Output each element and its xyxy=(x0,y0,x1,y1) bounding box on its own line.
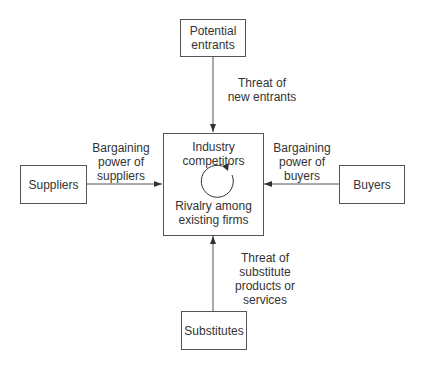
edge-label-line: power of xyxy=(267,155,337,169)
buyers-box: Buyers xyxy=(339,165,405,204)
edge-label-line: power of xyxy=(86,155,156,169)
edge-label-line: substitute xyxy=(220,265,310,279)
edge-label-line: buyers xyxy=(267,169,337,183)
edge-label-line: services xyxy=(220,293,310,307)
substitutes-box: Substitutes xyxy=(181,311,247,350)
supplier-power-label: Bargaining power of suppliers xyxy=(86,141,156,183)
threat-substitutes-label: Threat of substitute products or service… xyxy=(220,251,310,307)
edge-label-line: Bargaining xyxy=(86,141,156,155)
threat-new-entrants-label: Threat of new entrants xyxy=(222,76,302,104)
rivalry-label-2: existing firms xyxy=(175,213,252,227)
rivalry-label-1: Rivalry among xyxy=(175,199,252,213)
edge-label-line: Bargaining xyxy=(267,141,337,155)
potential-entrants-label-1: Potential xyxy=(190,24,237,38)
edge-label-line: new entrants xyxy=(222,90,302,104)
industry-label-2: competitors xyxy=(182,154,244,168)
edge-label-line: suppliers xyxy=(86,169,156,183)
edge-label-line: Threat of xyxy=(222,76,302,90)
buyers-label: Buyers xyxy=(353,178,390,192)
potential-entrants-label-2: entrants xyxy=(191,38,234,52)
industry-label-1: Industry xyxy=(182,140,244,154)
substitutes-label: Substitutes xyxy=(184,324,243,338)
suppliers-box: Suppliers xyxy=(20,165,87,204)
edge-label-line: products or xyxy=(220,279,310,293)
industry-competitors-box: Industry competitors Rivalry among exist… xyxy=(163,133,264,236)
potential-entrants-box: Potential entrants xyxy=(180,19,246,57)
suppliers-label: Suppliers xyxy=(28,178,78,192)
buyer-power-label: Bargaining power of buyers xyxy=(267,141,337,183)
edge-label-line: Threat of xyxy=(220,251,310,265)
